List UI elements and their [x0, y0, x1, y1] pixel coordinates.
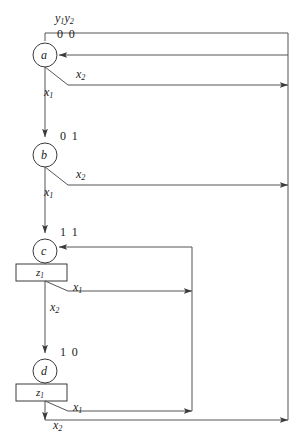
flowchart-graphics — [0, 0, 304, 448]
branch-label-a-x2: x2 — [76, 68, 85, 82]
state-encoding-c: 1 1 — [60, 226, 79, 238]
state-encoding-a: 0 0 — [57, 28, 76, 40]
inner-return-rail — [59, 247, 192, 411]
edge-d-x1-branch — [45, 401, 192, 411]
output-label-c-z1: z1 — [36, 267, 44, 280]
branch-label-c-x2: x2 — [50, 301, 59, 315]
output-label-d-z1: z1 — [36, 387, 44, 400]
state-encoding-d: 1 0 — [60, 346, 79, 358]
edge-c-x1-branch — [45, 281, 192, 291]
branch-label-d-x1: x1 — [73, 401, 82, 415]
state-diagram-canvas: y1y2 0 0 0 1 1 1 1 0 a b c d z1 z1 x1 x2… — [0, 0, 304, 448]
state-label-a: a — [41, 49, 47, 61]
branch-label-c-x1: x1 — [73, 281, 82, 295]
branch-label-a-x1: x1 — [44, 86, 53, 100]
state-var-header: y1y2 — [55, 12, 74, 26]
outer-return-rail — [45, 33, 288, 420]
state-var-y2: y2 — [64, 11, 73, 25]
state-label-b: b — [41, 149, 47, 161]
state-var-y1: y1 — [55, 11, 64, 25]
state-label-d: d — [41, 365, 47, 377]
branch-label-b-x1: x1 — [44, 186, 53, 200]
branch-label-d-x2: x2 — [53, 419, 62, 433]
state-encoding-b: 0 1 — [60, 130, 79, 142]
branch-label-b-x2: x2 — [76, 168, 85, 182]
state-label-c: c — [41, 245, 46, 257]
